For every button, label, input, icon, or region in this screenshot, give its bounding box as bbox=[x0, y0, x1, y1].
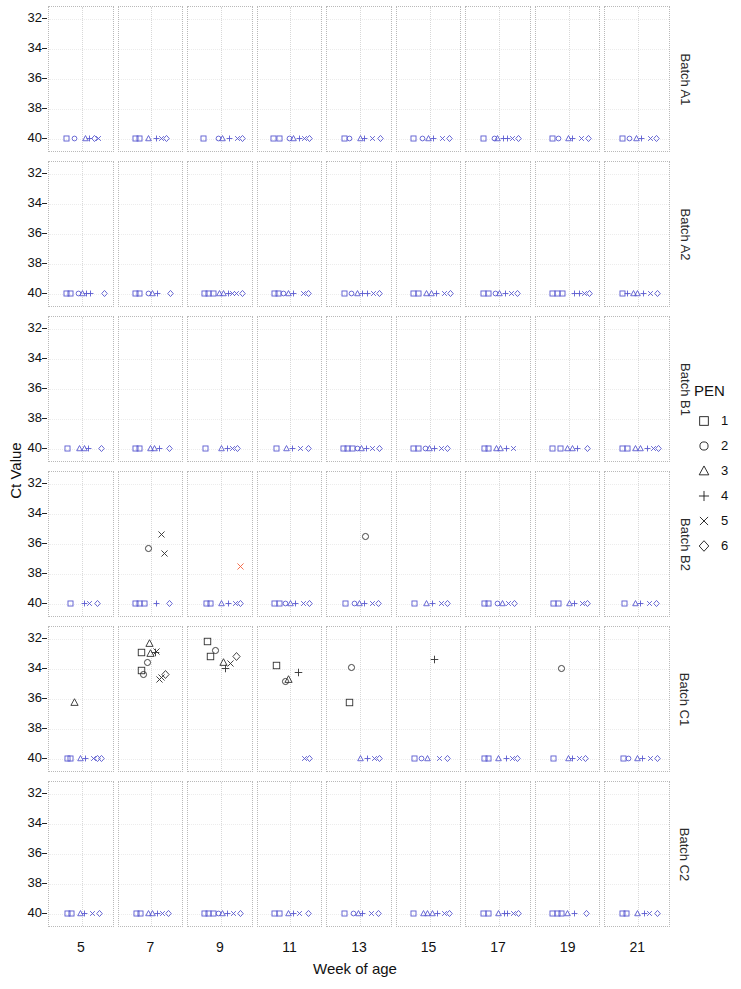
panel-gridline-horizontal bbox=[466, 234, 530, 235]
panel-gridline-horizontal bbox=[466, 604, 530, 605]
panel-gridline-horizontal bbox=[188, 604, 252, 605]
y-tick-mark bbox=[42, 603, 47, 604]
panel-strip-label-text: Batch B2 bbox=[678, 518, 693, 571]
panel-gridline-horizontal bbox=[466, 669, 530, 670]
plot-panel bbox=[48, 781, 114, 927]
panel-gridline-horizontal bbox=[605, 174, 669, 175]
panel-gridline-horizontal bbox=[327, 49, 391, 50]
panel-gridline-horizontal bbox=[536, 329, 600, 330]
y-tick-label: 34 bbox=[8, 196, 42, 210]
panel-gridline-horizontal bbox=[188, 449, 252, 450]
panel-gridline-horizontal bbox=[188, 19, 252, 20]
y-tick-label: 34 bbox=[8, 41, 42, 55]
plot-panel bbox=[48, 626, 114, 772]
panel-strip-label-text: Batch C1 bbox=[678, 672, 693, 725]
y-tick-label: 38 bbox=[8, 721, 42, 735]
panel-gridline-horizontal bbox=[258, 389, 322, 390]
panel-gridline-horizontal bbox=[258, 824, 322, 825]
panel-gridline-horizontal bbox=[188, 484, 252, 485]
panel-gridline-horizontal bbox=[258, 669, 322, 670]
panel-gridline-horizontal bbox=[536, 914, 600, 915]
y-tick-label: 34 bbox=[8, 506, 42, 520]
panel-gridline-horizontal bbox=[536, 19, 600, 20]
panel-gridline-horizontal bbox=[605, 914, 669, 915]
panel-gridline-horizontal bbox=[119, 914, 183, 915]
y-tick-mark bbox=[42, 823, 47, 824]
plus-icon bbox=[694, 486, 714, 506]
panel-gridline-horizontal bbox=[397, 514, 461, 515]
panel-gridline-horizontal bbox=[466, 419, 530, 420]
panel-gridline-horizontal bbox=[188, 389, 252, 390]
panel-gridline-horizontal bbox=[258, 544, 322, 545]
y-tick-mark bbox=[42, 293, 47, 294]
y-tick-mark bbox=[42, 78, 47, 79]
panel-gridline-horizontal bbox=[605, 604, 669, 605]
panel-gridline-horizontal bbox=[327, 484, 391, 485]
panel-gridline-horizontal bbox=[327, 729, 391, 730]
panel-gridline-horizontal bbox=[49, 669, 113, 670]
panel-gridline-horizontal bbox=[397, 109, 461, 110]
panel-gridline-horizontal bbox=[327, 914, 391, 915]
panel-strip-label: Batch C1 bbox=[672, 626, 698, 772]
panel-gridline-horizontal bbox=[188, 174, 252, 175]
y-tick-mark bbox=[42, 173, 47, 174]
panel-gridline-horizontal bbox=[258, 639, 322, 640]
panel-gridline-horizontal bbox=[49, 389, 113, 390]
panel-gridline-horizontal bbox=[119, 139, 183, 140]
panel-gridline-horizontal bbox=[188, 699, 252, 700]
panel-gridline-horizontal bbox=[327, 884, 391, 885]
panel-gridline-horizontal bbox=[49, 639, 113, 640]
plot-panel bbox=[187, 471, 253, 617]
panel-gridline-horizontal bbox=[327, 604, 391, 605]
panel-gridline-horizontal bbox=[536, 484, 600, 485]
panel-gridline-horizontal bbox=[397, 639, 461, 640]
plot-panel bbox=[257, 626, 323, 772]
panel-gridline-horizontal bbox=[119, 174, 183, 175]
y-tick-label: 36 bbox=[8, 71, 42, 85]
panel-gridline-horizontal bbox=[466, 389, 530, 390]
panel-gridline-horizontal bbox=[536, 514, 600, 515]
panel-gridline-horizontal bbox=[397, 139, 461, 140]
panel-gridline-horizontal bbox=[119, 884, 183, 885]
panel-gridline-horizontal bbox=[49, 604, 113, 605]
panel-gridline-horizontal bbox=[536, 174, 600, 175]
panel-gridline-horizontal bbox=[258, 49, 322, 50]
y-tick-mark bbox=[42, 793, 47, 794]
plot-panel bbox=[257, 781, 323, 927]
panel-gridline-horizontal bbox=[327, 794, 391, 795]
panel-gridline-horizontal bbox=[119, 574, 183, 575]
panel-gridline-horizontal bbox=[258, 449, 322, 450]
plot-panel bbox=[396, 626, 462, 772]
panel-gridline-horizontal bbox=[397, 914, 461, 915]
y-tick-mark bbox=[42, 728, 47, 729]
panel-gridline-horizontal bbox=[188, 294, 252, 295]
panel-gridline-horizontal bbox=[466, 794, 530, 795]
panel-gridline-horizontal bbox=[327, 449, 391, 450]
panel-gridline-horizontal bbox=[605, 329, 669, 330]
panel-gridline-horizontal bbox=[466, 49, 530, 50]
y-tick-mark bbox=[42, 108, 47, 109]
plot-panel bbox=[118, 161, 184, 307]
plot-panel bbox=[118, 6, 184, 152]
plot-panel bbox=[465, 6, 531, 152]
panel-gridline-horizontal bbox=[605, 669, 669, 670]
panel-gridline-horizontal bbox=[605, 794, 669, 795]
panel-gridline-horizontal bbox=[119, 419, 183, 420]
panel-gridline-horizontal bbox=[188, 264, 252, 265]
panel-gridline-horizontal bbox=[49, 204, 113, 205]
panel-gridline-horizontal bbox=[536, 49, 600, 50]
panel-gridline-horizontal bbox=[536, 884, 600, 885]
panel-gridline-horizontal bbox=[49, 484, 113, 485]
panel-gridline-horizontal bbox=[327, 419, 391, 420]
x-tick-label: 15 bbox=[396, 938, 462, 956]
panel-gridline-horizontal bbox=[397, 49, 461, 50]
panel-gridline-horizontal bbox=[188, 234, 252, 235]
panel-gridline-horizontal bbox=[119, 109, 183, 110]
panel-gridline-horizontal bbox=[605, 639, 669, 640]
panel-gridline-horizontal bbox=[327, 514, 391, 515]
y-tick-mark bbox=[42, 913, 47, 914]
y-tick-label: 34 bbox=[8, 661, 42, 675]
panel-gridline-horizontal bbox=[188, 79, 252, 80]
panel-gridline-horizontal bbox=[536, 574, 600, 575]
x-tick-label: 13 bbox=[326, 938, 392, 956]
